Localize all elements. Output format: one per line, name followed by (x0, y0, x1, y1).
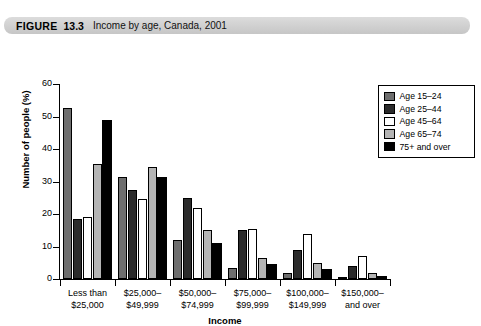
legend-item[interactable]: Age 15–24 (384, 90, 470, 103)
y-axis-tick-label: 10 (6, 241, 52, 251)
bar[interactable] (102, 120, 111, 279)
legend-swatch-icon (384, 142, 395, 152)
bar[interactable] (258, 258, 267, 279)
bar[interactable] (228, 268, 237, 279)
bar-group (283, 84, 331, 279)
legend-item[interactable]: 75+ and over (384, 140, 470, 153)
bar[interactable] (73, 219, 82, 279)
y-axis-tick (53, 214, 60, 215)
bar-group (173, 84, 221, 279)
bar[interactable] (267, 264, 276, 279)
bar[interactable] (203, 230, 212, 279)
x-axis-tick (390, 279, 391, 286)
bar[interactable] (313, 263, 322, 279)
bar[interactable] (93, 164, 102, 279)
legend-swatch-icon (384, 129, 395, 139)
bar[interactable] (303, 234, 312, 280)
figure-title: Income by age, Canada, 2001 (93, 20, 227, 31)
bar[interactable] (193, 208, 202, 280)
bar[interactable] (368, 273, 377, 280)
bar[interactable] (377, 276, 386, 279)
y-axis-tick (53, 182, 60, 183)
bar[interactable] (83, 217, 92, 279)
bar[interactable] (212, 243, 221, 279)
y-axis-tick (53, 279, 60, 280)
y-axis-tick-label: 0 (6, 273, 52, 283)
y-axis-tick (53, 247, 60, 248)
bar[interactable] (358, 256, 367, 279)
bar[interactable] (322, 269, 331, 279)
bar[interactable] (63, 108, 72, 279)
x-axis-tick (225, 279, 226, 286)
legend-item[interactable]: Age 45–64 (384, 115, 470, 128)
y-axis-tick (53, 84, 60, 85)
y-axis-title: Number of people (%) (20, 55, 31, 225)
x-axis-tick (60, 279, 61, 286)
x-axis-tick (170, 279, 171, 286)
legend-label: Age 65–74 (400, 129, 442, 139)
bar[interactable] (293, 250, 302, 279)
bar-group (63, 84, 111, 279)
bar[interactable] (283, 273, 292, 280)
x-axis-category-line: $150,000– (320, 288, 406, 300)
bar-group (228, 84, 276, 279)
figure-label: FIGURE (16, 20, 57, 32)
y-axis-tick (53, 117, 60, 118)
chart-plot-area: 0102030405060 Number of people (%) Less … (0, 38, 481, 296)
bar[interactable] (338, 277, 347, 279)
bar[interactable] (148, 167, 157, 279)
bar[interactable] (138, 199, 147, 279)
legend-swatch-icon (384, 117, 395, 127)
x-axis-title: Income (60, 315, 390, 326)
bar[interactable] (173, 240, 182, 279)
chart-legend: Age 15–24Age 25–44Age 45–64Age 65–7475+ … (378, 85, 475, 158)
legend-label: 75+ and over (400, 142, 451, 152)
y-axis-tick (53, 149, 60, 150)
bar[interactable] (128, 190, 137, 279)
x-axis-tick (115, 279, 116, 286)
bar[interactable] (118, 177, 127, 279)
legend-swatch-icon (384, 104, 395, 114)
figure-title-banner: FIGURE 13.3 Income by age, Canada, 2001 (4, 17, 470, 34)
bar[interactable] (248, 229, 257, 279)
x-axis-tick (335, 279, 336, 286)
legend-swatch-icon (384, 92, 395, 102)
x-axis-category-line: and over (320, 300, 406, 312)
legend-label: Age 45–64 (400, 116, 442, 126)
legend-label: Age 25–44 (400, 104, 442, 114)
bar[interactable] (157, 177, 166, 279)
legend-label: Age 15–24 (400, 91, 442, 101)
bar-group (118, 84, 166, 279)
x-axis-tick (280, 279, 281, 286)
bars-layer (60, 84, 390, 279)
bar[interactable] (238, 230, 247, 279)
bar[interactable] (183, 198, 192, 279)
legend-item[interactable]: Age 25–44 (384, 103, 470, 116)
bar[interactable] (348, 266, 357, 279)
x-axis-category-label: $150,000–and over (320, 288, 406, 311)
legend-item[interactable]: Age 65–74 (384, 128, 470, 141)
figure-number: 13.3 (63, 20, 83, 32)
